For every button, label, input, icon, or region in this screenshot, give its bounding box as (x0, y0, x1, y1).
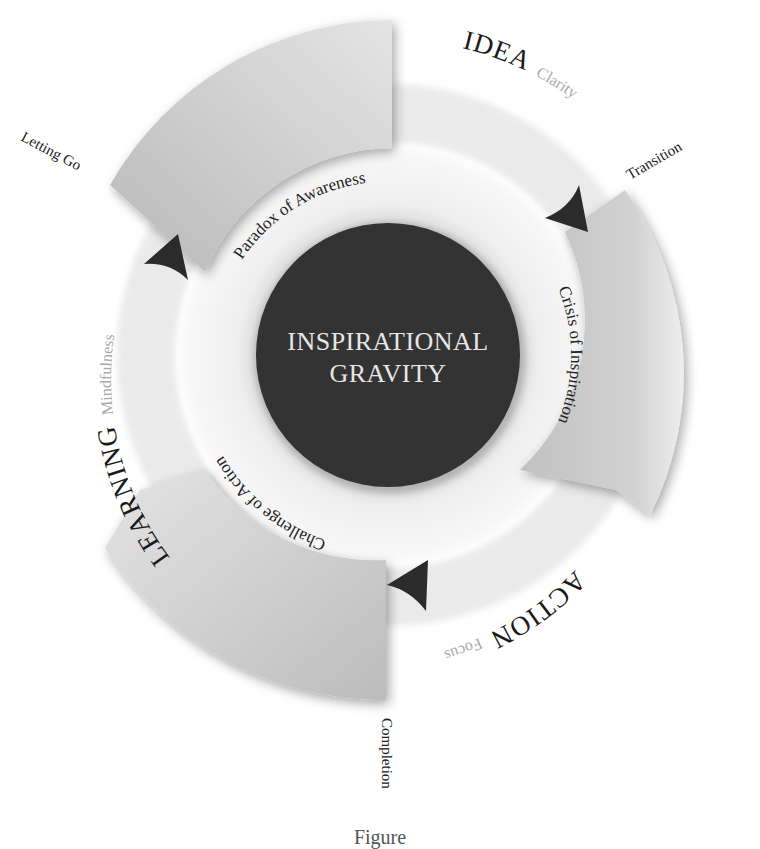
transition-label-completion: Completion (379, 718, 395, 789)
figure-caption: Figure (0, 826, 760, 849)
center-title-line-1: INSPIRATIONAL (287, 327, 489, 356)
phase-label-idea: IDEA Clarity (460, 25, 581, 102)
transition-label-letting-go: Letting Go (19, 129, 84, 174)
center-circle (254, 222, 526, 494)
center-title-line-2: GRAVITY (329, 359, 446, 388)
transition-label-transition: Transition (624, 138, 685, 183)
